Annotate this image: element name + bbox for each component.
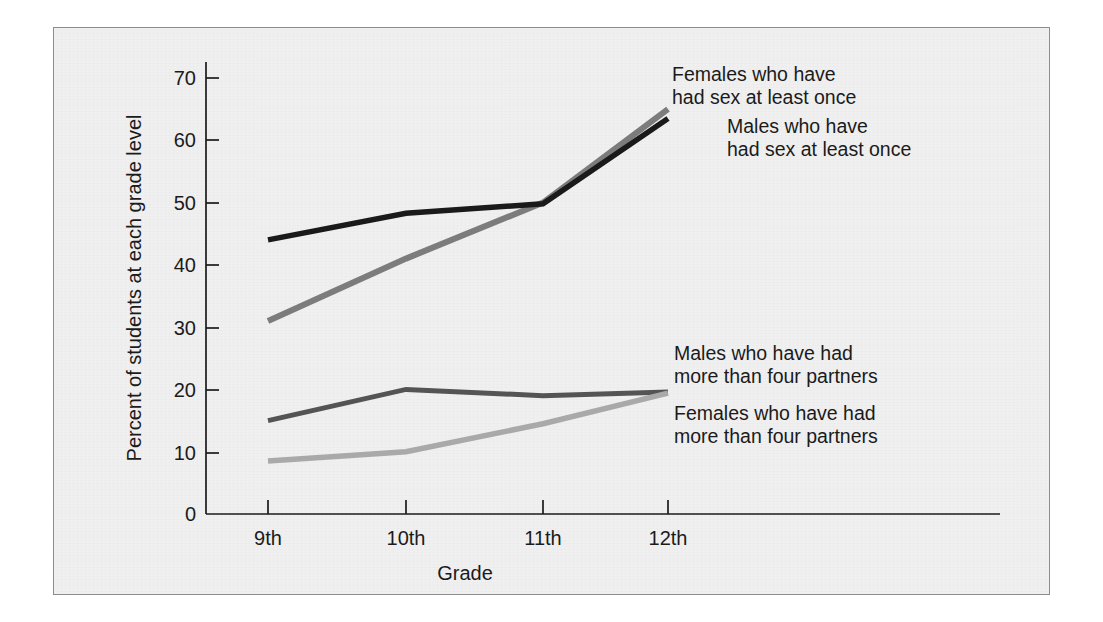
series-line-females-four-partners bbox=[268, 393, 668, 461]
annotation-females-had-sex-line1: Females who have bbox=[672, 63, 836, 85]
y-tick-label-70: 70 bbox=[174, 67, 196, 89]
x-axis-title: Grade bbox=[437, 562, 493, 584]
annotation-females-four-partners: Females who have had more than four part… bbox=[674, 402, 878, 447]
annotation-males-four-partners-line1: Males who have had bbox=[674, 342, 853, 364]
axes-group bbox=[206, 62, 1000, 514]
x-tick-label-10th: 10th bbox=[387, 527, 426, 549]
y-tick-label-0: 0 bbox=[185, 503, 196, 525]
y-tick-labels: 70 60 50 40 30 20 10 0 bbox=[174, 67, 196, 525]
x-tick-labels: 9th 10th 11th 12th bbox=[254, 527, 687, 549]
figure-container: 70 60 50 40 30 20 10 0 9th 10th 11th 12t… bbox=[0, 0, 1103, 622]
annotation-females-four-partners-line2: more than four partners bbox=[674, 425, 878, 447]
y-axis-title: Percent of students at each grade level bbox=[123, 115, 145, 462]
y-tick-label-40: 40 bbox=[174, 254, 196, 276]
annotation-females-four-partners-line1: Females who have had bbox=[674, 402, 876, 424]
y-tick-label-30: 30 bbox=[174, 317, 196, 339]
annotation-males-had-sex: Males who have had sex at least once bbox=[727, 115, 911, 160]
annotation-females-had-sex: Females who have had sex at least once bbox=[672, 63, 856, 108]
series-line-males-four-partners bbox=[268, 389, 668, 420]
x-tick-marks bbox=[268, 500, 668, 514]
annotation-males-had-sex-line2: had sex at least once bbox=[727, 138, 911, 160]
y-tick-marks bbox=[206, 78, 219, 453]
y-tick-label-20: 20 bbox=[174, 379, 196, 401]
series-line-males-had-sex bbox=[268, 119, 668, 240]
x-tick-label-9th: 9th bbox=[254, 527, 282, 549]
y-tick-label-50: 50 bbox=[174, 192, 196, 214]
annotation-males-four-partners: Males who have had more than four partne… bbox=[674, 342, 878, 387]
annotation-males-had-sex-line1: Males who have bbox=[727, 115, 868, 137]
x-tick-label-11th: 11th bbox=[524, 527, 561, 549]
y-tick-label-60: 60 bbox=[174, 129, 196, 151]
annotation-males-four-partners-line2: more than four partners bbox=[674, 365, 878, 387]
x-tick-label-12th: 12th bbox=[649, 527, 688, 549]
y-tick-label-10: 10 bbox=[174, 442, 196, 464]
line-chart: 70 60 50 40 30 20 10 0 9th 10th 11th 12t… bbox=[0, 0, 1103, 622]
annotation-females-had-sex-line2: had sex at least once bbox=[672, 86, 856, 108]
series-line-females-had-sex bbox=[268, 109, 668, 321]
